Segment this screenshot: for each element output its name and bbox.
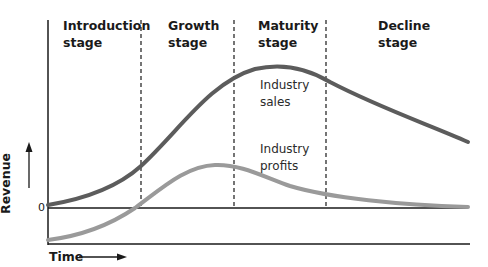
stage-label-introduction: Introduction stage: [63, 17, 150, 51]
stage-label-line1: Introduction: [63, 17, 150, 34]
time-arrow-head: [117, 254, 127, 261]
revenue-arrow-head: [26, 142, 33, 152]
stage-label-line2: stage: [258, 34, 318, 51]
stage-label-line1: Decline: [378, 17, 430, 34]
sales-curve-label: Industry sales: [260, 77, 309, 111]
stage-label-line2: stage: [168, 34, 219, 51]
stage-label-growth: Growth stage: [168, 17, 219, 51]
stage-label-maturity: Maturity stage: [258, 17, 318, 51]
curve-label-line1: Industry: [260, 77, 309, 94]
zero-label: 0: [38, 201, 45, 214]
profits-curve: [48, 165, 468, 240]
stage-label-line1: Maturity: [258, 17, 318, 34]
y-axis-label: Revenue: [0, 154, 13, 214]
x-axis-label: Time: [49, 249, 83, 264]
profits-curve-label: Industry profits: [260, 141, 309, 175]
stage-label-line2: stage: [378, 34, 430, 51]
curve-label-line2: sales: [260, 94, 309, 111]
stage-label-line2: stage: [63, 34, 150, 51]
stage-label-line1: Growth: [168, 17, 219, 34]
curve-label-line2: profits: [260, 158, 309, 175]
curve-label-line1: Industry: [260, 141, 309, 158]
stage-label-decline: Decline stage: [378, 17, 430, 51]
sales-curve: [48, 66, 468, 205]
